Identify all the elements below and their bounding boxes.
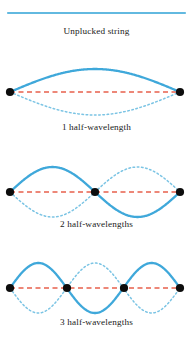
node-dot xyxy=(63,284,71,292)
string-mirror-curve-dotted xyxy=(10,92,180,115)
node-dot xyxy=(176,88,184,96)
first-harmonic-art xyxy=(0,60,193,130)
node-dot xyxy=(120,284,128,292)
unplucked-string-art xyxy=(0,0,193,28)
node-dot xyxy=(176,188,184,196)
caption-second-harmonic: 2 half-wavelengths xyxy=(0,219,193,229)
caption-unplucked-string: Unplucked string xyxy=(0,26,193,36)
panel-first-harmonic: 1 half-wavelength xyxy=(0,60,193,140)
panel-third-harmonic: 3 half-wavelengths xyxy=(0,251,193,335)
string-curve-solid xyxy=(10,69,180,92)
panel-unplucked-string: Unplucked string xyxy=(0,0,193,46)
standing-wave-figure: Unplucked string 1 half-wavelength 2 hal… xyxy=(0,0,193,338)
node-dot xyxy=(6,88,14,96)
caption-third-harmonic: 3 half-wavelengths xyxy=(0,317,193,327)
second-harmonic-art xyxy=(0,155,193,229)
node-dot xyxy=(176,284,184,292)
caption-first-harmonic: 1 half-wavelength xyxy=(0,122,193,132)
panel-second-harmonic: 2 half-wavelengths xyxy=(0,155,193,237)
node-dot xyxy=(6,284,14,292)
third-harmonic-art xyxy=(0,251,193,325)
node-dot xyxy=(91,188,99,196)
node-dot xyxy=(6,188,14,196)
